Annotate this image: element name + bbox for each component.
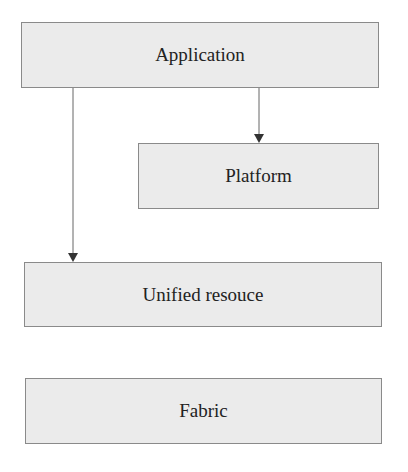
node-fabric: Fabric <box>25 378 382 444</box>
node-unified-resource: Unified resouce <box>24 262 382 327</box>
node-label: Application <box>155 44 245 66</box>
node-label: Platform <box>225 165 292 187</box>
arrowhead-icon <box>68 253 78 262</box>
node-label: Fabric <box>179 400 228 422</box>
arrowhead-icon <box>254 134 264 143</box>
node-platform: Platform <box>138 143 379 209</box>
node-application: Application <box>21 22 379 88</box>
node-label: Unified resouce <box>143 284 264 306</box>
